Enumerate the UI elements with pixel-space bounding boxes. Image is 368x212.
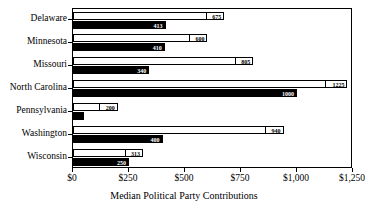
y-axis-label-pennsylvania: Pennsylvania <box>16 105 67 116</box>
bar-value-label: 1000 <box>274 89 297 97</box>
y-axis-tick <box>68 65 72 66</box>
bar-value-label: 410 <box>146 43 165 51</box>
y-axis-tick <box>68 19 72 20</box>
bar-group: 313250 <box>73 146 351 169</box>
x-axis-tick <box>128 168 129 172</box>
x-axis-title: Median Political Party Contributions <box>0 190 368 202</box>
x-axis-tick <box>72 168 73 172</box>
x-axis-tick <box>240 168 241 172</box>
bar-value-label: 400 <box>144 135 163 143</box>
bar-value-label: 250 <box>110 158 129 166</box>
bar-group: 12251000 <box>73 78 351 101</box>
plot-area: 6754136004108053401225100020094040031325… <box>72 8 352 168</box>
bar-upper <box>73 80 347 88</box>
bar-chart: 6754136004108053401225100020094040031325… <box>0 0 368 212</box>
y-axis-label-wisconsin: Wisconsin <box>27 151 67 162</box>
x-axis-tick <box>352 168 353 172</box>
y-axis-tick <box>68 88 72 89</box>
bar-group: 805340 <box>73 55 351 78</box>
y-axis-label-missouri: Missouri <box>33 59 67 70</box>
bar-group: 200 <box>73 100 351 123</box>
bar-value-label: 675 <box>206 12 225 20</box>
y-axis-label-delaware: Delaware <box>31 13 67 24</box>
bar-group: 940400 <box>73 123 351 146</box>
x-axis-tick-label: $750 <box>231 173 250 184</box>
y-axis-tick <box>68 157 72 158</box>
y-axis-tick <box>68 111 72 112</box>
bar-value-label: 940 <box>265 126 284 134</box>
x-axis-tick <box>296 168 297 172</box>
y-axis-tick <box>68 42 72 43</box>
bar-lower <box>73 89 297 97</box>
bar-value-label: 200 <box>99 103 118 111</box>
x-axis-tick-label: $250 <box>119 173 138 184</box>
bar-value-label: 340 <box>131 66 150 74</box>
y-axis-label-washington: Washington <box>22 128 67 139</box>
x-axis-tick-label: $500 <box>175 173 194 184</box>
y-axis-label-north-carolina: North Carolina <box>10 82 67 93</box>
bar-value-label: 1225 <box>325 80 348 88</box>
bar-group: 600410 <box>73 32 351 55</box>
bar-value-label: 600 <box>189 34 208 42</box>
y-axis-tick <box>68 134 72 135</box>
y-axis-label-minnesota: Minnesota <box>27 36 67 47</box>
bar-upper <box>73 12 224 20</box>
bar-value-label: 313 <box>125 149 144 157</box>
bar-lower <box>73 112 84 120</box>
bar-value-label: 805 <box>235 57 254 65</box>
bar-upper <box>73 57 253 65</box>
bar-group: 675413 <box>73 9 351 32</box>
x-axis-tick <box>184 168 185 172</box>
x-axis-tick-label: $1,250 <box>339 173 365 184</box>
bar-upper <box>73 34 207 42</box>
x-axis-tick-label: $1,000 <box>283 173 309 184</box>
x-axis-tick-label: $0 <box>67 173 77 184</box>
bar-value-label: 413 <box>147 21 166 29</box>
bar-upper <box>73 126 284 134</box>
